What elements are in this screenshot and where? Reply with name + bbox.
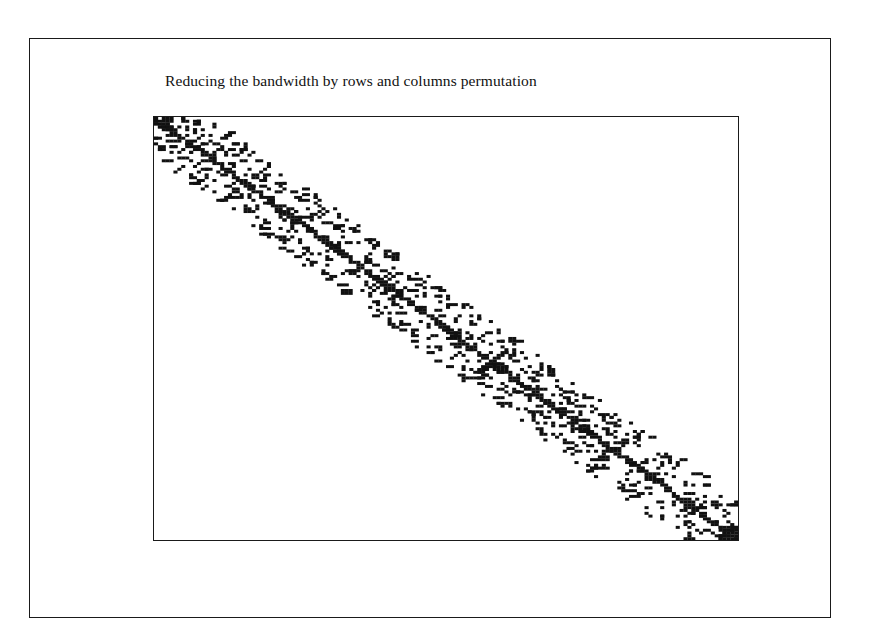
figure-title: Reducing the bandwidth by rows and colum… — [165, 72, 537, 90]
spy-plot-area — [153, 116, 739, 541]
sparse-matrix-pattern — [154, 117, 738, 540]
